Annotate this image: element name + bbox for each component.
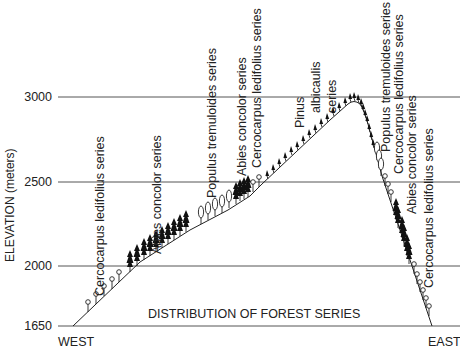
label-west-abies-low: Abies concolor series <box>150 135 164 254</box>
label-west-cercocarpus-high: Cercocarpus ledifolius series <box>250 8 264 168</box>
diagram-caption: DISTRIBUTION OF FOREST SERIES <box>148 307 360 321</box>
y-tick-2500: 2500 <box>24 175 52 189</box>
east-label: EAST <box>428 335 460 349</box>
label-west-abies-high: Abies concolor series <box>235 57 249 176</box>
west-label: WEST <box>58 335 94 349</box>
forest-series-diagram: 3000 2500 2000 1650 ELEVATION (meters) W… <box>0 0 460 352</box>
abies-firs-west-high <box>233 175 252 204</box>
y-tick-1650: 1650 <box>24 319 52 333</box>
y-axis-title: ELEVATION (meters) <box>3 148 17 262</box>
label-east-abies: Abies concolor series <box>405 95 419 214</box>
label-west-cercocarpus-low: Cercocarpus ledifolius series <box>93 136 107 296</box>
label-summit-albicaulis: albicaulis <box>309 62 323 113</box>
cercocarpus-shrubs-east-high <box>383 174 394 202</box>
y-tick-2000: 2000 <box>24 259 52 273</box>
label-east-cercocarpus-low: Cercocarpus ledifolius series <box>422 128 436 288</box>
label-west-populus: Populus tremuloides series <box>205 48 219 198</box>
y-tick-3000: 3000 <box>24 90 52 104</box>
label-east-cercocarpus-high: Cercocarpus ledifolius series <box>392 14 406 174</box>
label-summit-pinus: Pinus <box>293 97 307 128</box>
label-east-populus: Populus tremuloides series <box>379 2 393 152</box>
label-summit-series: series <box>325 80 339 113</box>
